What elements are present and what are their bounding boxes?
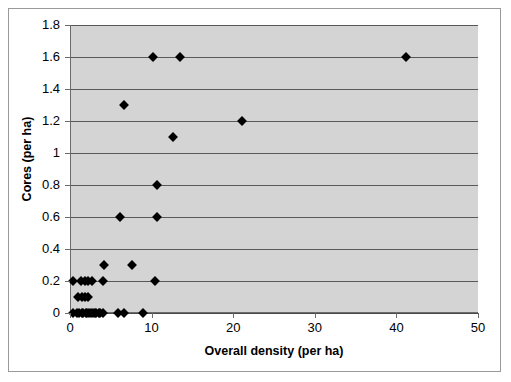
x-axis-tick (152, 313, 153, 318)
gridline (71, 313, 478, 314)
gridline (71, 121, 478, 122)
data-point (237, 116, 247, 126)
x-axis-title: Overall density (per ha) (70, 344, 478, 358)
y-axis-tick (65, 89, 70, 90)
x-axis-tick-label: 0 (40, 321, 100, 335)
y-axis-tick-label-wrap: 0.4 (6, 249, 60, 250)
y-axis-tick (65, 185, 70, 186)
y-axis-tick-label: 0.6 (42, 210, 60, 223)
y-axis-tick (65, 153, 70, 154)
gridline (71, 89, 478, 90)
data-point (175, 52, 185, 62)
y-axis-tick-label: 0.4 (42, 242, 60, 255)
x-axis-tick-label-wrap: 30 (285, 321, 345, 335)
x-axis-tick (233, 313, 234, 318)
x-axis-tick-label-wrap: 10 (122, 321, 182, 335)
x-axis-tick-label: 50 (448, 321, 508, 335)
y-axis-tick-label: 0.8 (42, 178, 60, 191)
y-axis-tick-label: 1 (53, 146, 60, 159)
data-point (152, 212, 162, 222)
data-point (99, 260, 109, 270)
data-point (401, 52, 411, 62)
y-axis-tick-label: 1.4 (42, 82, 60, 95)
data-point (148, 52, 158, 62)
y-axis-tick (65, 25, 70, 26)
x-axis-tick (315, 313, 316, 318)
y-axis-tick (65, 217, 70, 218)
y-axis-tick-label: 1.6 (42, 50, 60, 63)
y-axis-tick-label-wrap: 0.2 (6, 281, 60, 282)
x-axis-tick-label-wrap: 20 (203, 321, 263, 335)
data-point (150, 276, 160, 286)
chart-figure: 00.20.40.60.811.21.41.61.8 01020304050 C… (0, 0, 511, 382)
y-axis-tick-label-wrap: 0 (6, 313, 60, 314)
y-axis-tick (65, 57, 70, 58)
x-axis-tick-label-wrap: 40 (366, 321, 426, 335)
gridline (71, 217, 478, 218)
gridline (71, 249, 478, 250)
x-axis-tick-label-wrap: 0 (40, 321, 100, 335)
data-point (115, 212, 125, 222)
y-axis-title: Cores (per ha) (20, 69, 34, 249)
y-axis-tick (65, 121, 70, 122)
y-axis-tick-label: 1.8 (42, 18, 60, 31)
x-axis-tick-label: 40 (366, 321, 426, 335)
gridline (71, 281, 478, 282)
x-axis-tick (478, 313, 479, 318)
x-axis-tick (396, 313, 397, 318)
y-axis-tick-label: 0 (53, 306, 60, 319)
x-axis-tick-label: 10 (122, 321, 182, 335)
y-axis-tick-label: 0.2 (42, 274, 60, 287)
data-point (152, 180, 162, 190)
data-point (168, 132, 178, 142)
gridline (71, 25, 478, 26)
y-axis-tick-label: 1.2 (42, 114, 60, 127)
gridline (71, 57, 478, 58)
y-axis-tick-label-wrap: 1.6 (6, 57, 60, 58)
x-axis-tick-label: 30 (285, 321, 345, 335)
gridline (71, 185, 478, 186)
x-axis-tick-label: 20 (203, 321, 263, 335)
data-point (127, 260, 137, 270)
y-axis-tick-label-wrap: 1.8 (6, 25, 60, 26)
y-axis-tick (65, 281, 70, 282)
data-point (119, 100, 129, 110)
x-axis-tick (70, 313, 71, 318)
y-axis-tick (65, 249, 70, 250)
data-point (98, 276, 108, 286)
x-axis-tick-label-wrap: 50 (448, 321, 508, 335)
gridline (71, 153, 478, 154)
plot-area (70, 25, 478, 313)
